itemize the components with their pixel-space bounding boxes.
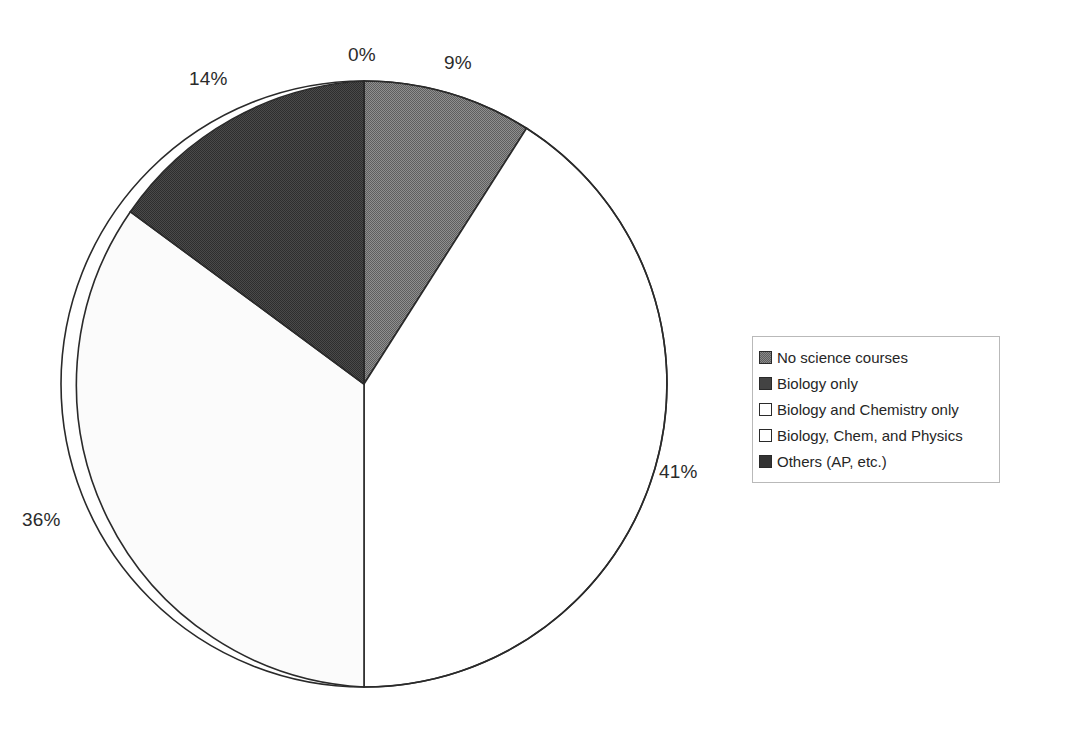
legend-item: Others (AP, etc.) [759,448,999,474]
chart-legend: No science courses Biology only Biology … [752,336,1000,483]
slice-label-36-percent: 36% [22,509,61,531]
legend-item: Biology and Chemistry only [759,396,999,422]
legend-item-label: Others (AP, etc.) [777,454,887,469]
legend-swatch-icon [759,429,772,442]
legend-item-label: Biology only [777,376,858,391]
legend-item: Biology only [759,370,999,396]
legend-item: No science courses [759,344,999,370]
legend-swatch-icon [759,403,772,416]
slice-label-9-percent: 9% [444,52,472,74]
legend-swatch-icon [759,455,772,468]
legend-item-label: Biology, Chem, and Physics [777,428,963,443]
legend-swatch-icon [759,351,772,364]
legend-item-label: Biology and Chemistry only [777,402,959,417]
pie-chart-figure: 0% 9% 41% 36% 14% No science courses Bio… [0,0,1072,732]
slice-label-41-percent: 41% [659,461,698,483]
slice-label-14-percent: 14% [189,68,228,90]
slice-label-0-percent: 0% [348,44,376,66]
legend-item: Biology, Chem, and Physics [759,422,999,448]
legend-swatch-icon [759,377,772,390]
legend-item-label: No science courses [777,350,908,365]
